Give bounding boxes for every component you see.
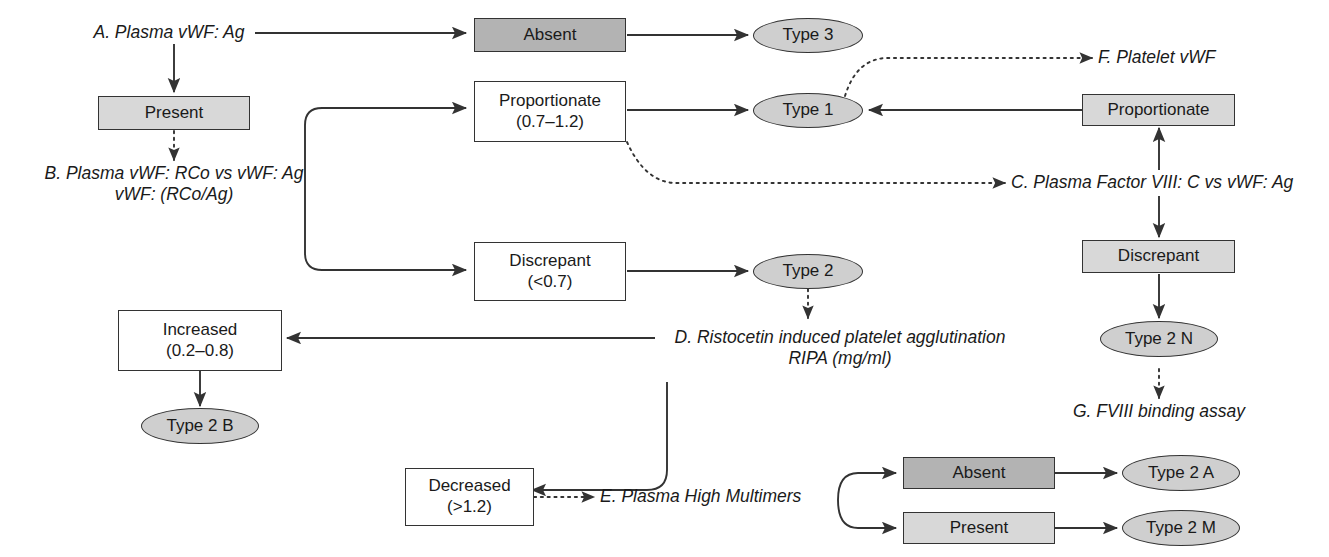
box-discrepant-mid-value: (<0.7) [528,272,573,293]
edge-b-fork [305,108,466,185]
label-a-text: A. Plasma vWF: Ag [93,22,244,43]
box-absent-top[interactable]: Absent [474,18,626,52]
outcome-type-2-m-label: Type 2 M [1146,518,1216,539]
box-absent-top-label: Absent [524,25,577,46]
outcome-type-2-b-label: Type 2 B [166,416,233,437]
label-d-ristocetin: D. Ristocetin induced platelet agglutina… [660,325,1020,371]
box-proportionate-mid-value: (0.7–1.2) [516,112,584,133]
box-discrepant-mid-label: Discrepant [509,251,590,272]
box-proportionate-right[interactable]: Proportionate [1082,94,1235,126]
flowchart-canvas: A. Plasma vWF: Ag B. Plasma vWF: RCo vs … [0,0,1329,557]
edge-e-to-present [838,500,896,528]
label-b-plasma-vwf-rco: B. Plasma vWF: RCo vs vWF: Ag vWF: (RCo/… [26,161,322,207]
box-increased[interactable]: Increased (0.2–0.8) [118,310,282,371]
label-b-line2: vWF: (RCo/Ag) [115,184,234,205]
box-absent-bottom[interactable]: Absent [903,457,1055,489]
edge-proportionate-to-c [627,142,1005,183]
outcome-type-2[interactable]: Type 2 [753,254,863,289]
box-absent-bottom-label: Absent [953,463,1006,484]
outcome-type-2-n[interactable]: Type 2 N [1100,321,1218,357]
outcome-type-2-a-label: Type 2 A [1148,463,1214,484]
label-b-line1: B. Plasma vWF: RCo vs vWF: Ag [45,163,304,184]
box-decreased-value: (>1.2) [447,497,492,518]
box-discrepant-right[interactable]: Discrepant [1082,240,1235,273]
outcome-type-2-label: Type 2 [782,261,833,282]
box-present-left[interactable]: Present [98,96,250,130]
box-discrepant-mid[interactable]: Discrepant (<0.7) [474,242,626,301]
box-decreased[interactable]: Decreased (>1.2) [405,468,534,526]
box-increased-label: Increased [163,320,238,341]
edge-e-to-absent [838,473,896,500]
outcome-type-1[interactable]: Type 1 [753,93,863,128]
label-c-text: C. Plasma Factor VIII: C vs vWF: Ag [1011,172,1293,193]
label-d-line1: D. Ristocetin induced platelet agglutina… [675,327,1006,348]
label-f-platelet-vwf: F. Platelet vWF [1098,46,1258,70]
outcome-type-2-b[interactable]: Type 2 B [141,408,259,444]
label-g-text: G. FVIII binding assay [1073,401,1245,422]
label-f-text: F. Platelet vWF [1098,47,1215,68]
box-proportionate-mid[interactable]: Proportionate (0.7–1.2) [474,81,626,142]
label-a-plasma-vwf-ag: A. Plasma vWF: Ag [84,21,254,45]
edge-ripa-to-decreased [532,382,667,490]
label-d-line2: RIPA (mg/ml) [788,348,891,369]
label-g-fviii-binding-assay: G. FVIII binding assay [1069,400,1249,424]
outcome-type-1-label: Type 1 [782,100,833,121]
box-decreased-label: Decreased [428,476,510,497]
box-present-bottom[interactable]: Present [903,512,1055,544]
label-e-plasma-high-multimers: E. Plasma High Multimers [600,485,840,509]
outcome-type-3-label: Type 3 [782,25,833,46]
box-present-bottom-label: Present [950,518,1009,539]
box-proportionate-right-label: Proportionate [1107,100,1209,121]
outcome-type-3[interactable]: Type 3 [753,18,863,53]
box-discrepant-right-label: Discrepant [1118,246,1199,267]
box-proportionate-mid-label: Proportionate [499,91,601,112]
label-e-text: E. Plasma High Multimers [600,486,801,507]
outcome-type-2-m[interactable]: Type 2 M [1122,510,1240,546]
edge-b-fork-lower [305,185,466,270]
outcome-type-2-n-label: Type 2 N [1125,329,1193,350]
label-c-plasma-factor-viii: C. Plasma Factor VIII: C vs vWF: Ag [1011,171,1321,195]
box-present-left-label: Present [145,103,204,124]
box-increased-value: (0.2–0.8) [166,341,234,362]
edge-type1-to-f [845,58,1092,96]
outcome-type-2-a[interactable]: Type 2 A [1122,455,1240,491]
